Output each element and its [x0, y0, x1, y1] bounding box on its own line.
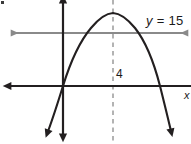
line-equation-lhs: y [146, 13, 153, 28]
parabola-curve [49, 13, 171, 130]
x-axis-label: x [184, 90, 190, 101]
parabola-figure: y = 15 4 x [0, 0, 191, 144]
line-equation-label: y = 15 [146, 14, 184, 27]
line-equation-rhs: = 15 [153, 13, 184, 28]
axis-of-symmetry-value-label: 4 [116, 68, 123, 80]
